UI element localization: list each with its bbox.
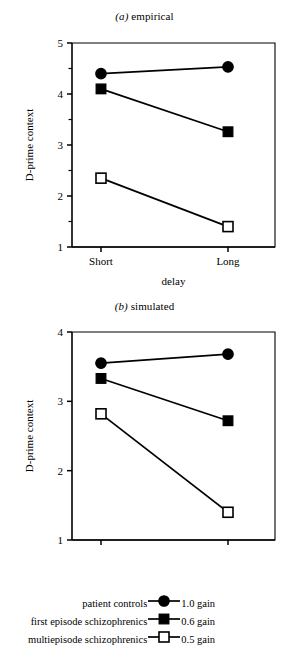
plot-area-empirical: 12345ShortLongdelayD-prime context [0, 0, 289, 290]
data-point-short-marker-filled-circle [96, 68, 106, 78]
figure-legend: patient controls1.0 gainfirst episode sc… [0, 592, 289, 658]
x-tick-label: Short [89, 548, 113, 550]
series-line [101, 378, 228, 420]
legend-table: patient controls1.0 gainfirst episode sc… [28, 594, 215, 648]
legend-marker-sample [147, 594, 181, 612]
data-point-long-marker-open-square [223, 507, 233, 517]
legend-gain-label: 1.0 gain [181, 594, 215, 612]
data-point-long-marker-filled-circle [223, 349, 233, 359]
series-open-square [96, 173, 233, 231]
series-filled-circle [96, 349, 233, 368]
y-tick-label: 3 [58, 395, 64, 407]
figure-container: (a) empirical 12345ShortLongdelayD-prime… [0, 0, 289, 658]
series-line [101, 67, 228, 74]
legend-series-name: multiepisode schizophrenics [28, 630, 147, 648]
y-tick-label: 5 [58, 37, 64, 49]
data-point-short-marker-open-square [96, 409, 106, 419]
series-filled-circle [96, 62, 233, 79]
legend-filled-circle-icon [147, 594, 181, 608]
legend-sample-marker-open-square [159, 632, 169, 642]
x-axis-title: delay [162, 275, 186, 287]
series-line [101, 178, 228, 226]
legend-row: first episode schizophrenics0.6 gain [28, 612, 215, 630]
x-tick-label: Long [216, 255, 240, 267]
y-tick-label: 2 [58, 190, 64, 202]
x-tick-label: Short [89, 255, 113, 267]
plot-area-simulated: 1234ShortLongdelayD-prime context [0, 290, 289, 550]
data-point-short-marker-filled-square [96, 374, 106, 384]
y-tick-label: 1 [58, 534, 64, 546]
y-tick-label: 4 [58, 326, 64, 338]
data-point-long-marker-filled-square [223, 127, 233, 137]
legend-marker-sample [147, 630, 181, 648]
series-filled-square [96, 374, 233, 426]
y-axis-title: D-prime context [23, 400, 35, 472]
data-point-long-marker-filled-circle [223, 62, 233, 72]
legend-sample-marker-filled-circle [159, 596, 169, 606]
panel-simulated: (b) simulated 1234ShortLongdelayD-prime … [0, 290, 289, 550]
legend-open-square-icon [147, 630, 181, 644]
y-tick-label: 4 [58, 88, 64, 100]
data-point-long-marker-open-square [223, 222, 233, 232]
legend-gain-label: 0.6 gain [181, 612, 215, 630]
legend-filled-square-icon [147, 612, 181, 626]
legend-marker-sample [147, 612, 181, 630]
series-filled-square [96, 84, 233, 136]
series-line [101, 354, 228, 363]
data-point-long-marker-filled-square [223, 416, 233, 426]
y-tick-label: 1 [58, 241, 64, 253]
y-tick-label: 3 [58, 139, 64, 151]
legend-row: patient controls1.0 gain [28, 594, 215, 612]
series-open-square [96, 409, 233, 517]
data-point-short-marker-filled-circle [96, 358, 106, 368]
series-line [101, 89, 228, 132]
legend-gain-label: 0.5 gain [181, 630, 215, 648]
data-point-short-marker-open-square [96, 173, 106, 183]
series-line [101, 414, 228, 512]
legend-series-name: patient controls [28, 594, 147, 612]
legend-row: multiepisode schizophrenics0.5 gain [28, 630, 215, 648]
y-tick-label: 2 [58, 465, 64, 477]
panel-empirical: (a) empirical 12345ShortLongdelayD-prime… [0, 0, 289, 290]
legend-sample-marker-filled-square [159, 614, 169, 624]
y-axis-title: D-prime context [23, 109, 35, 181]
x-tick-label: Long [216, 548, 240, 550]
legend-series-name: first episode schizophrenics [28, 612, 147, 630]
data-point-short-marker-filled-square [96, 84, 106, 94]
